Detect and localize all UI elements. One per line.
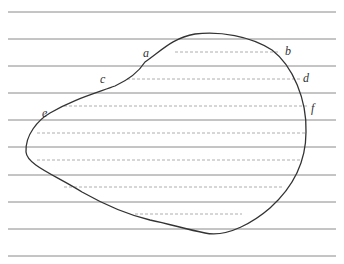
label-c: c <box>100 72 106 86</box>
label-b: b <box>285 44 291 58</box>
label-f: f <box>311 101 316 115</box>
label-a: a <box>143 46 149 60</box>
point-labels: abcdef <box>42 44 316 120</box>
label-d: d <box>303 71 310 85</box>
diagram-canvas: abcdef <box>0 0 344 264</box>
label-e: e <box>42 106 48 120</box>
closed-curve <box>26 33 306 234</box>
